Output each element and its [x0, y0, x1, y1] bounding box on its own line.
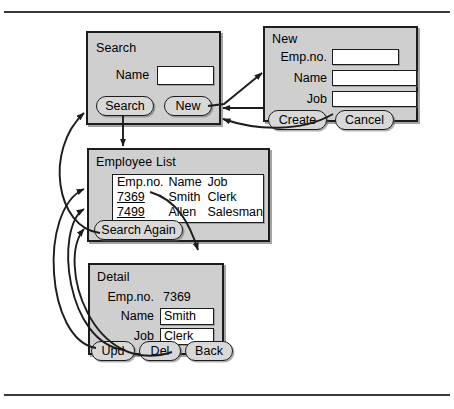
employee-link-7369[interactable]: 7369 — [117, 190, 145, 204]
frame-bottom-rule — [4, 394, 450, 396]
table-row: 7369 Smith Clerk — [113, 190, 263, 205]
th-empno: Emp.no. — [113, 175, 164, 190]
update-button[interactable]: Upd — [91, 341, 135, 361]
table-row: 7499 Allen Salesman — [113, 205, 263, 220]
panel-title-new: New — [272, 33, 297, 46]
detail-empno-label: Emp.no. — [104, 290, 154, 304]
employee-table: Emp.no. Name Job 7369 Smith Clerk 7499 A… — [112, 174, 264, 223]
back-button[interactable]: Back — [185, 341, 233, 361]
cell-name: Smith — [164, 190, 203, 205]
screen-transition-diagram: Search Name Search New New Emp.no. Name … — [0, 0, 454, 409]
new-name-label: Name — [271, 71, 327, 85]
new-job-input[interactable] — [332, 91, 417, 107]
th-name: Name — [164, 175, 203, 190]
search-name-label: Name — [114, 68, 149, 82]
detail-name-label: Name — [104, 309, 154, 323]
search-button[interactable]: Search — [96, 96, 154, 116]
table-header-row: Emp.no. Name Job — [113, 175, 263, 190]
employee-link-7499[interactable]: 7499 — [117, 205, 145, 219]
search-again-button[interactable]: Search Again — [94, 220, 183, 240]
th-job: Job — [203, 175, 263, 190]
screen-panel-employee-list: Employee List Emp.no. Name Job 7369 Smit… — [87, 148, 270, 242]
detail-empno-value: 7369 — [163, 290, 191, 304]
cell-job: Clerk — [203, 190, 263, 205]
new-name-input[interactable] — [332, 70, 417, 86]
detail-name-input[interactable]: Smith — [160, 308, 214, 325]
delete-button[interactable]: Del — [139, 341, 181, 361]
new-button[interactable]: New — [164, 96, 212, 116]
screen-panel-new: New Emp.no. Name Job Create Cancel — [263, 26, 418, 122]
new-empno-input[interactable] — [332, 49, 399, 65]
search-name-input[interactable] — [157, 66, 214, 85]
cancel-button[interactable]: Cancel — [335, 110, 394, 130]
panel-title-detail: Detail — [97, 271, 130, 284]
new-empno-label: Emp.no. — [271, 50, 327, 64]
screen-panel-search: Search Name Search New — [86, 31, 221, 125]
new-job-label: Job — [271, 92, 327, 106]
frame-top-rule — [4, 11, 450, 13]
cell-name: Allen — [164, 205, 203, 220]
create-button[interactable]: Create — [268, 110, 327, 130]
panel-title-employee-list: Employee List — [96, 156, 176, 169]
cell-job: Salesman — [203, 205, 263, 220]
screen-panel-detail: Detail Emp.no. 7369 Name Smith Job Clerk… — [88, 263, 224, 355]
panel-title-search: Search — [96, 42, 136, 55]
